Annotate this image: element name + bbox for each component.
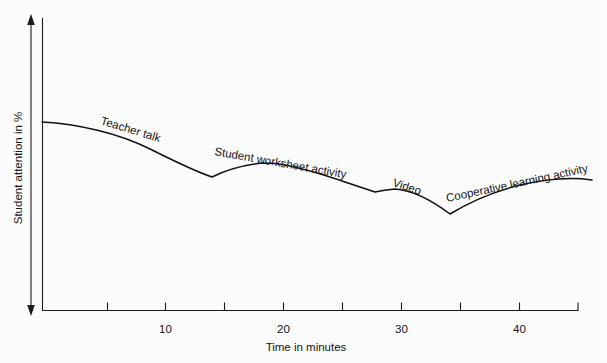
x-axis-title: Time in minutes: [266, 341, 347, 353]
segment-label-cooperative: Cooperative learning activity: [445, 162, 589, 204]
y-axis-title: Student attention in %: [12, 112, 24, 225]
segment-label-student-worksheet: Student worksheet activity: [214, 145, 348, 180]
y-axis-extent-arrow: [27, 14, 35, 316]
x-tick-label-30: 30: [395, 323, 408, 335]
segment-label-video: Video: [391, 176, 422, 196]
x-tick-label-40: 40: [513, 323, 526, 335]
segment-label-teacher-talk: Teacher talk: [99, 114, 162, 144]
x-axis-ticks: [108, 303, 579, 311]
attention-chart-svg: 10 20 30 40 Time in minutes Student atte…: [0, 0, 607, 363]
chart-figure: 10 20 30 40 Time in minutes Student atte…: [0, 0, 607, 363]
x-tick-label-10: 10: [159, 323, 172, 335]
x-tick-label-20: 20: [277, 323, 290, 335]
